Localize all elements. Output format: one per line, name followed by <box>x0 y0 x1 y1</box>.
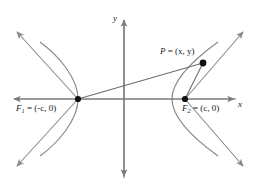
focus-1-label: F1 = (-c, 0) <box>16 104 56 115</box>
point-p-label: P = (x, y) <box>160 47 195 56</box>
hyperbola-figure: y x F1 = (-c, 0) F2 = (c, 0) P = (x, y) <box>0 0 260 190</box>
point-p <box>200 60 207 67</box>
focus-1-label-equation: = (-c, 0) <box>25 103 57 113</box>
point-p-label-equation: = (x, y) <box>166 46 195 56</box>
focus-2-label: F2 = (c, 0) <box>182 104 219 115</box>
asymptote-ray-upper-left <box>17 32 78 99</box>
y-axis-label: y <box>113 14 117 23</box>
point-f2 <box>182 96 188 102</box>
point-f1 <box>75 96 81 102</box>
focus-2-label-equation: = (c, 0) <box>191 103 220 113</box>
figure-canvas <box>0 0 260 190</box>
segment-f1-to-p <box>78 63 203 99</box>
x-axis-label: x <box>238 100 242 109</box>
